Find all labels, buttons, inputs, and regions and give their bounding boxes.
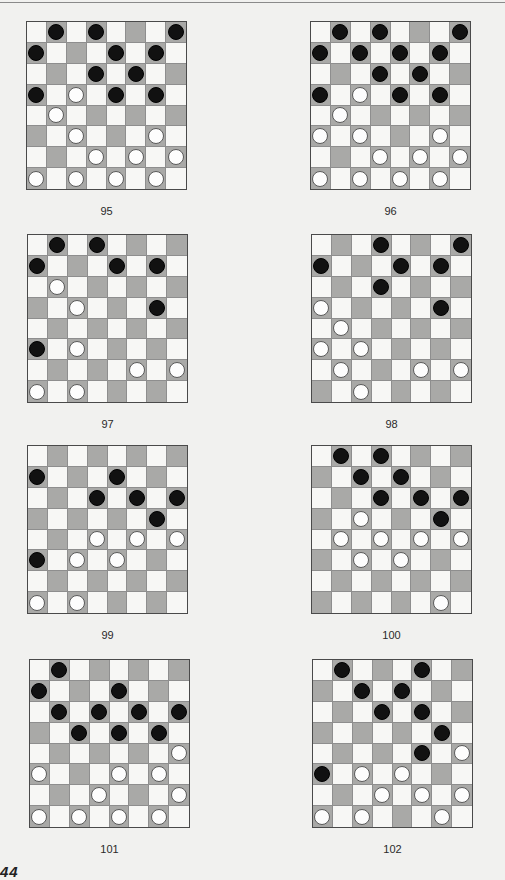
light-square <box>313 744 333 765</box>
black-checker-piece <box>28 45 44 61</box>
light-square <box>88 509 108 530</box>
light-square <box>332 509 352 530</box>
dark-square <box>393 764 413 785</box>
dark-square <box>149 723 169 744</box>
black-checker-piece <box>374 704 390 720</box>
dark-square <box>127 571 147 592</box>
white-checker-piece <box>313 300 329 316</box>
diagram-number-label: 98 <box>311 418 472 430</box>
light-square <box>391 147 411 168</box>
dark-square <box>313 723 333 744</box>
dark-square <box>147 339 167 360</box>
light-square <box>430 147 450 168</box>
black-checker-piece <box>433 258 449 274</box>
light-square <box>392 319 412 340</box>
black-checker-piece <box>352 45 368 61</box>
light-square <box>67 22 87 43</box>
white-checker-piece <box>432 128 448 144</box>
white-checker-piece <box>413 362 429 378</box>
white-checker-piece <box>111 766 127 782</box>
dark-square <box>27 43 47 64</box>
light-square <box>313 702 333 723</box>
dark-square <box>452 702 472 723</box>
white-checker-piece <box>353 511 369 527</box>
light-square <box>108 488 128 509</box>
dark-square <box>147 381 167 402</box>
dark-square <box>353 806 373 827</box>
dark-square <box>88 360 108 381</box>
white-checker-piece <box>89 531 105 547</box>
light-square <box>110 744 130 765</box>
dark-square <box>48 530 68 551</box>
light-square <box>452 681 472 702</box>
light-square <box>28 277 48 298</box>
dark-square <box>167 530 187 551</box>
light-square <box>352 571 372 592</box>
white-checker-piece <box>372 149 388 165</box>
black-checker-piece <box>169 490 185 506</box>
dark-square <box>147 467 167 488</box>
dark-square <box>146 126 166 147</box>
black-checker-piece <box>353 469 369 485</box>
dark-square <box>48 319 68 340</box>
black-checker-piece <box>149 300 165 316</box>
dark-square <box>110 764 130 785</box>
black-checker-piece <box>373 448 389 464</box>
dark-square <box>167 360 187 381</box>
dark-square <box>332 277 352 298</box>
white-checker-piece <box>453 531 469 547</box>
black-checker-piece <box>414 745 430 761</box>
dark-square <box>312 467 332 488</box>
dark-square <box>431 298 451 319</box>
dark-square <box>412 702 432 723</box>
white-checker-piece <box>354 766 370 782</box>
light-square <box>372 381 392 402</box>
dark-square <box>392 467 412 488</box>
light-square <box>47 168 67 189</box>
dark-square <box>90 702 110 723</box>
black-checker-piece <box>128 66 144 82</box>
light-square <box>372 509 392 530</box>
light-square <box>30 785 50 806</box>
light-square <box>311 64 331 85</box>
dark-square <box>352 339 372 360</box>
light-square <box>166 168 186 189</box>
dark-square <box>167 446 187 467</box>
light-square <box>451 381 471 402</box>
dark-square <box>371 147 391 168</box>
light-square <box>451 592 471 613</box>
white-checker-piece <box>374 787 390 803</box>
white-checker-piece <box>333 320 349 336</box>
dark-square <box>126 22 146 43</box>
dark-square <box>351 43 371 64</box>
light-square <box>28 235 48 256</box>
dark-square <box>311 43 331 64</box>
dark-square <box>450 22 470 43</box>
light-square <box>312 235 332 256</box>
dark-square <box>127 360 147 381</box>
light-square <box>28 488 48 509</box>
diagram-number-label: 96 <box>310 205 471 217</box>
light-square <box>450 43 470 64</box>
light-square <box>27 106 47 127</box>
light-square <box>87 43 107 64</box>
dark-square <box>450 64 470 85</box>
dark-square <box>312 339 332 360</box>
dark-square <box>149 806 169 827</box>
dark-square <box>451 319 471 340</box>
white-checker-piece <box>31 766 47 782</box>
light-square <box>393 785 413 806</box>
dark-square <box>333 702 353 723</box>
dark-square <box>110 806 130 827</box>
dark-square <box>87 64 107 85</box>
black-checker-piece <box>171 704 187 720</box>
dark-square <box>411 446 431 467</box>
dark-square <box>411 530 431 551</box>
dark-square <box>333 744 353 765</box>
light-square <box>127 550 147 571</box>
dark-square <box>47 22 67 43</box>
white-checker-piece <box>332 107 348 123</box>
dark-square <box>333 785 353 806</box>
white-checker-piece <box>394 766 410 782</box>
light-square <box>431 488 451 509</box>
